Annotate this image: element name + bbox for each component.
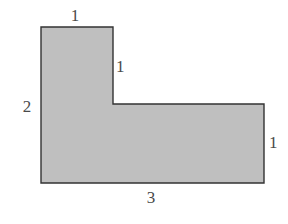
l-shape-diagram	[0, 0, 288, 224]
dimension-label-top-1: 1	[71, 7, 80, 24]
figure-canvas: 1 1 2 1 3	[0, 0, 288, 224]
l-shape-polygon	[41, 27, 264, 183]
dimension-label-inner-right-1: 1	[116, 58, 125, 75]
dimension-label-bottom-3: 3	[147, 189, 156, 206]
dimension-label-left-2: 2	[23, 98, 32, 115]
dimension-label-far-right-1: 1	[269, 134, 278, 151]
